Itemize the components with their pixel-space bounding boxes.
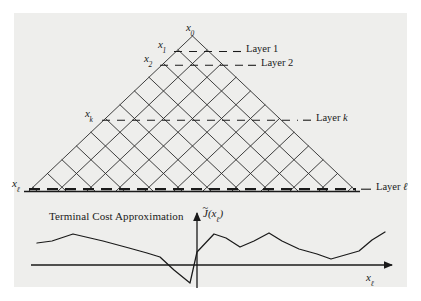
layer1-node-subscript: 1 <box>162 46 166 55</box>
layer-2-label: Layer 2 <box>261 58 293 69</box>
layer2-node-subscript: 2 <box>148 60 152 69</box>
j-tilde-symbol: ~J <box>203 208 208 219</box>
tilde-accent: ~ <box>202 203 208 213</box>
lattice-diagonals <box>29 36 356 191</box>
layerk-node-subscript: k <box>89 115 92 124</box>
layer-k-word: Layer <box>316 112 340 123</box>
layer-2-index: 2 <box>288 57 293 68</box>
layer-k-label: Layer k <box>316 113 348 124</box>
figure-graphics <box>0 0 421 301</box>
layer-l-word: Layer <box>376 181 400 192</box>
layerk-node-label: xk <box>85 108 93 122</box>
layer-1-index: 1 <box>273 43 278 54</box>
layer1-node-label: x1 <box>158 39 167 53</box>
y-arg-subscript: ℓ <box>216 215 219 224</box>
layer-l-label: Layer ℓ <box>376 182 407 193</box>
layer-k-index: k <box>343 112 348 123</box>
apex-node-subscript: 0 <box>190 29 194 38</box>
layer-1-label: Layer 1 <box>246 44 278 55</box>
layerl-node-label: xℓ <box>12 178 20 192</box>
plot-y-axis-label: ~J(xℓ) <box>203 208 223 222</box>
apex-node-label: x0 <box>186 22 195 36</box>
x-axis-subscript: ℓ <box>370 279 373 288</box>
layer2-node-label: x2 <box>144 53 153 67</box>
plot-x-axis-label: xℓ <box>366 272 374 286</box>
terminal-cost-curve <box>37 232 385 283</box>
layerl-node-subscript: ℓ <box>16 185 19 194</box>
layer-2-word: Layer <box>261 57 285 68</box>
figure-root: x0 x1 x2 xk xℓ Layer 1 Layer 2 Layer k L… <box>0 0 421 301</box>
layer-1-word: Layer <box>246 43 270 54</box>
layer-l-index: ℓ <box>403 181 407 192</box>
plot-title: Terminal Cost Approximation <box>49 211 184 222</box>
